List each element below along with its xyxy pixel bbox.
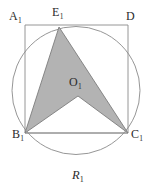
vertex-label-b1: B1 (12, 128, 24, 140)
geometry-canvas (0, 0, 151, 189)
vertex-label-d: D (126, 10, 135, 22)
vertex-label-e1: E1 (52, 6, 63, 18)
vertex-label-a1: A1 (9, 10, 21, 22)
geometry-figure: A1 E1 D O1 B1 C1 R1 (0, 0, 151, 189)
figure-caption: R1 (72, 169, 84, 182)
vertex-label-c1: C1 (131, 128, 143, 140)
vertex-label-o1: O1 (69, 76, 81, 88)
